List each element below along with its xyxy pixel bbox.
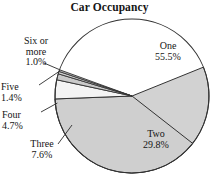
- slice-label-five-name: Five: [1, 82, 39, 93]
- slice-label-four-name: Four: [2, 110, 46, 121]
- slice-label-five: Five 1.4%: [1, 82, 39, 103]
- slice-label-three-name: Three: [18, 139, 66, 150]
- slice-label-one: One 55.5%: [144, 41, 192, 62]
- pie-chart-figure: Car Occupancy One 55.5% Two 29.8% Three …: [0, 0, 219, 182]
- slice-label-one-name: One: [144, 41, 192, 52]
- slice-label-two: Two 29.8%: [132, 129, 180, 150]
- slice-label-three: Three 7.6%: [18, 139, 66, 160]
- slice-label-three-percent: 7.6%: [18, 150, 66, 161]
- slice-label-six-percent: 1.0%: [10, 57, 62, 68]
- slice-label-one-percent: 55.5%: [144, 52, 192, 63]
- slice-label-four-percent: 4.7%: [2, 121, 46, 132]
- slice-label-four: Four 4.7%: [2, 110, 46, 131]
- slice-label-five-percent: 1.4%: [1, 93, 39, 104]
- slice-label-two-name: Two: [132, 129, 180, 140]
- slice-label-six-or-more: Six or more 1.0%: [10, 36, 62, 68]
- slice-label-six-name-line1: Six or: [10, 36, 62, 47]
- slice-label-two-percent: 29.8%: [132, 140, 180, 151]
